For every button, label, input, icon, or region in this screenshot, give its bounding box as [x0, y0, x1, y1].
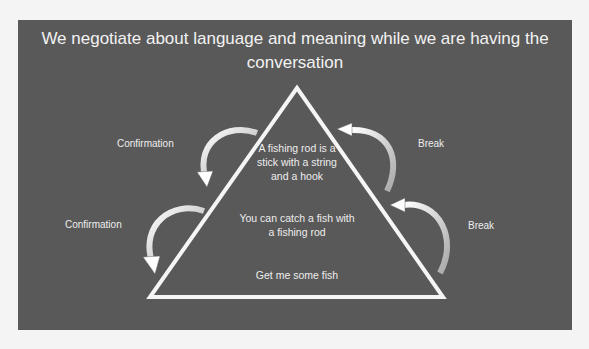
confirmation-label-1: Confirmation	[117, 138, 174, 149]
pyramid-level-middle: You can catch a fish with a fishing rod	[237, 211, 357, 239]
break-label-1: Break	[418, 138, 444, 149]
pyramid-level-bottom: Get me some fish	[237, 268, 357, 282]
pyramid-triangle	[150, 88, 443, 297]
break-label-2: Break	[468, 220, 494, 231]
pyramid-level-top: A fishing rod is a stick with a string a…	[257, 141, 337, 183]
confirmation-label-2: Confirmation	[65, 219, 122, 230]
